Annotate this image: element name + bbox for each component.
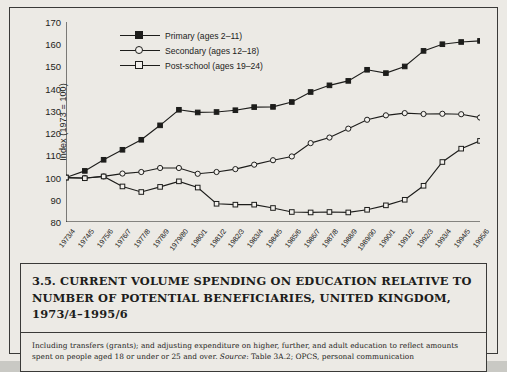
y-tick-label: 140 bbox=[45, 83, 61, 94]
data-point bbox=[402, 64, 407, 69]
data-point bbox=[402, 111, 407, 116]
data-point bbox=[384, 203, 389, 208]
x-tick-label: 1979/80 bbox=[167, 227, 190, 252]
x-tick-label: 1995/6 bbox=[471, 227, 491, 249]
data-point bbox=[346, 126, 351, 131]
data-point bbox=[290, 210, 295, 215]
data-point bbox=[176, 165, 181, 170]
x-tick-label: 1989/90 bbox=[356, 227, 379, 252]
data-point bbox=[101, 157, 106, 162]
x-tick-label: 1987/8 bbox=[320, 227, 340, 249]
data-point bbox=[477, 115, 480, 120]
data-point bbox=[177, 107, 182, 112]
data-point bbox=[308, 210, 313, 215]
legend-marker-open-square-icon bbox=[120, 60, 160, 71]
figure-frame: Index (1973 = 100) 809010011012013014015… bbox=[9, 7, 498, 354]
caption-source-label: Source bbox=[220, 352, 246, 361]
data-point bbox=[459, 146, 464, 151]
data-point bbox=[158, 123, 163, 128]
data-point bbox=[83, 176, 88, 181]
y-tick-label: 150 bbox=[45, 61, 61, 72]
x-tick-label: 1977/8 bbox=[132, 227, 152, 249]
data-point bbox=[440, 160, 445, 165]
legend-item-label: Secondary (ages 12–18) bbox=[165, 46, 259, 56]
y-tick-label: 120 bbox=[45, 128, 61, 139]
data-point bbox=[440, 42, 445, 47]
data-point bbox=[421, 111, 426, 116]
data-point bbox=[364, 117, 369, 122]
x-tick-label: 1985/6 bbox=[283, 227, 303, 249]
data-point bbox=[421, 49, 426, 54]
legend-marker-filled-square-icon bbox=[120, 30, 160, 41]
data-point bbox=[233, 167, 238, 172]
caption-box: 3.5. CURRENT VOLUME SPENDING ON EDUCATIO… bbox=[20, 263, 487, 372]
data-point bbox=[271, 206, 276, 211]
data-point bbox=[195, 185, 200, 190]
data-point bbox=[83, 169, 88, 174]
x-tick-label: 1973/4 bbox=[57, 227, 77, 249]
data-point bbox=[271, 105, 276, 110]
x-tick-label: 1986/7 bbox=[301, 227, 321, 249]
data-point bbox=[158, 185, 163, 190]
data-point bbox=[346, 79, 351, 84]
data-point bbox=[252, 202, 257, 207]
data-point bbox=[459, 40, 464, 45]
data-point bbox=[195, 171, 200, 176]
data-point bbox=[384, 71, 389, 76]
legend-item-label: Primary (ages 2–11) bbox=[165, 31, 242, 41]
data-point bbox=[101, 174, 106, 179]
x-tick-label: 1980/1 bbox=[189, 227, 209, 249]
data-point bbox=[478, 39, 480, 44]
x-tick-label: 1982/3 bbox=[226, 227, 246, 249]
data-point bbox=[459, 112, 464, 117]
data-point bbox=[66, 175, 68, 180]
y-tick-label: 90 bbox=[50, 194, 61, 205]
data-point bbox=[214, 110, 219, 115]
data-point bbox=[478, 139, 480, 144]
y-tick-label: 110 bbox=[46, 150, 61, 161]
x-tick-label: 1984/5 bbox=[264, 227, 284, 249]
data-point bbox=[327, 210, 332, 215]
x-tick-label: 1992/3 bbox=[414, 227, 434, 249]
caption-note-after: : Table 3A.2; OPCS, personal communicati… bbox=[246, 352, 414, 361]
data-point bbox=[120, 147, 125, 152]
chart-area: Index (1973 = 100) 809010011012013014015… bbox=[10, 8, 499, 257]
y-tick-label: 100 bbox=[45, 172, 61, 183]
data-point bbox=[252, 162, 257, 167]
data-point bbox=[120, 184, 125, 189]
data-point bbox=[120, 171, 125, 176]
data-point bbox=[139, 190, 144, 195]
caption-note: Including transfers (grants); and adjust… bbox=[21, 333, 486, 371]
data-point bbox=[402, 197, 407, 202]
data-point bbox=[195, 110, 200, 115]
caption-title: 3.5. CURRENT VOLUME SPENDING ON EDUCATIO… bbox=[21, 264, 486, 333]
data-point bbox=[233, 108, 238, 113]
data-point bbox=[327, 83, 332, 88]
series-line bbox=[66, 141, 480, 213]
data-point bbox=[421, 183, 426, 188]
data-point bbox=[365, 67, 370, 72]
legend-item: Primary (ages 2–11) bbox=[120, 28, 263, 43]
data-point bbox=[214, 201, 219, 206]
data-point bbox=[308, 90, 313, 95]
x-tick-label: 1983/4 bbox=[245, 227, 265, 249]
x-tick-label: 1990/1 bbox=[377, 227, 397, 249]
y-tick-label: 170 bbox=[45, 17, 61, 28]
y-tick-label: 80 bbox=[50, 217, 61, 228]
caption-number: 3.5. bbox=[32, 274, 56, 288]
x-tick-label: 1981/2 bbox=[207, 227, 227, 249]
legend-item: Post-school (ages 19–24) bbox=[120, 58, 263, 73]
caption-title-text: CURRENT VOLUME SPENDING ON EDUCATION REL… bbox=[32, 274, 472, 321]
data-point bbox=[214, 169, 219, 174]
x-tick-label: 1976/7 bbox=[113, 227, 133, 249]
data-point bbox=[177, 179, 182, 184]
x-tick-label: 1975/6 bbox=[94, 227, 114, 249]
legend-item-label: Post-school (ages 19–24) bbox=[165, 61, 263, 71]
data-point bbox=[308, 141, 313, 146]
data-point bbox=[383, 113, 388, 118]
legend-item: Secondary (ages 12–18) bbox=[120, 43, 263, 58]
x-tick-label: 1993/4 bbox=[433, 227, 453, 249]
data-point bbox=[270, 158, 275, 163]
data-point bbox=[290, 100, 295, 105]
